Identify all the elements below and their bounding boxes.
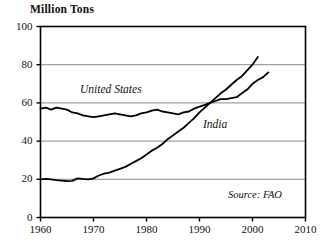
- y-tick-label: 20: [3, 172, 33, 184]
- series-line-united-states: [41, 72, 269, 117]
- y-tick-label: 100: [3, 20, 33, 32]
- x-tick-label: 1990: [178, 223, 222, 235]
- y-tick-label: 0: [3, 211, 33, 223]
- x-tick-label: 1960: [19, 223, 63, 235]
- x-tick-label: 2000: [231, 223, 275, 235]
- chart-container: Million Tons United States India Source:…: [0, 0, 326, 249]
- series-label-india: India: [203, 118, 227, 130]
- y-tick-label: 80: [3, 58, 33, 70]
- series-label-united-states: United States: [80, 83, 142, 95]
- source-note: Source: FAO: [228, 189, 282, 200]
- x-tick-label: 1970: [72, 223, 116, 235]
- y-tick-label: 40: [3, 134, 33, 146]
- x-tick-label: 2010: [284, 223, 326, 235]
- chart-plot-area: [0, 0, 326, 249]
- x-tick-label: 1980: [125, 223, 169, 235]
- y-tick-label: 60: [3, 96, 33, 108]
